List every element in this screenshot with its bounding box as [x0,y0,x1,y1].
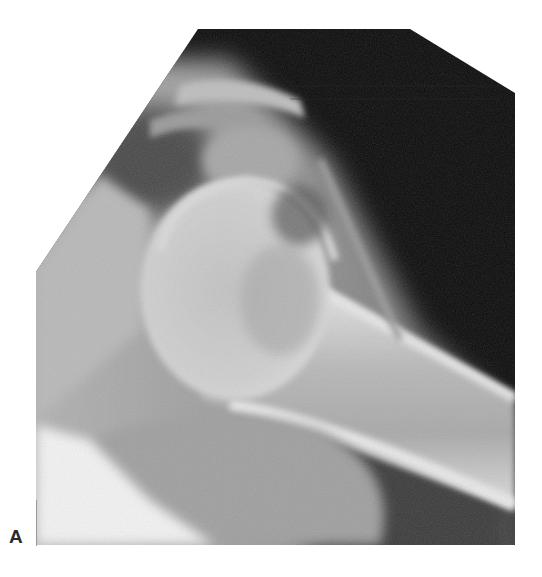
panel-label: A [9,527,23,546]
film-area [0,0,542,577]
panel-divider [36,500,37,546]
radiograph-figure: A [0,0,542,577]
film-grain [0,0,542,577]
radiograph-image [0,0,542,577]
